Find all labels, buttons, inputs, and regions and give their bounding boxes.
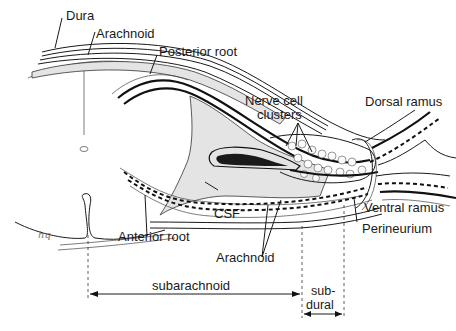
label-dorsal-ramus: Dorsal ramus (365, 94, 443, 109)
label-nerve-cell-line2: clusters (257, 107, 302, 122)
label-arachnoid-top: Arachnoid (96, 26, 155, 41)
dorsal-ramus (365, 110, 456, 165)
label-subdural-line1: sub- (311, 284, 335, 298)
label-posterior-root: Posterior root (159, 44, 237, 59)
label-dura: Dura (66, 8, 95, 23)
label-csf: CSF (214, 206, 240, 221)
label-subdural-line2: dural (306, 298, 334, 312)
central-canal (80, 147, 88, 152)
spinal-cord (15, 61, 210, 239)
artist-signature: hq (38, 229, 51, 240)
label-nerve-cell-line1: Nerve cell (245, 93, 303, 108)
label-subarachnoid: subarachnoid (152, 278, 230, 293)
label-perineurium: Perineurium (362, 221, 432, 236)
label-arachnoid-bottom: Arachnoid (216, 250, 275, 265)
label-ventral-ramus: Ventral ramus (364, 200, 445, 215)
spinal-nerve-diagram: Dura Arachnoid Posterior root Nerve cell… (0, 0, 456, 331)
label-anterior-root: Anterior root (118, 229, 190, 244)
